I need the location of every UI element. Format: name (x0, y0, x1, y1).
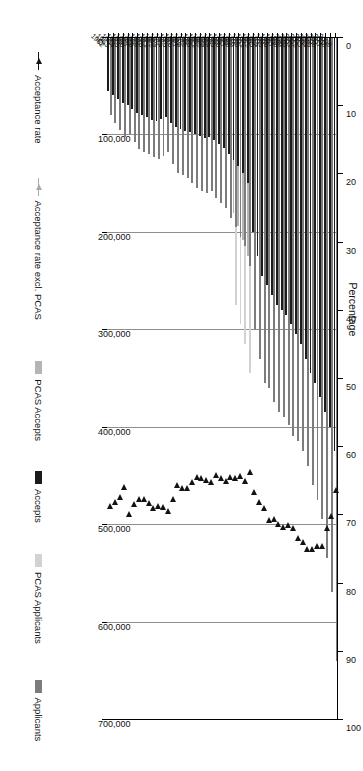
bar-accepts (319, 37, 321, 397)
chart-legend: Acceptance rateAcceptance rate excl. PCA… (3, 0, 63, 771)
tick-label-percentage: 20 (346, 177, 356, 187)
bar-accepts (285, 37, 287, 315)
tick-percentage (338, 446, 343, 447)
bar-accepts (141, 37, 143, 115)
bar-accepts (175, 37, 177, 127)
legend-item: PCAS Accepts (33, 361, 45, 441)
legend-label: PCAS Applicants (33, 572, 44, 644)
bar-accepts (151, 37, 153, 120)
tick-label-percentage: 10 (346, 109, 356, 119)
legend-swatch (35, 680, 42, 693)
tick-label-percentage: 30 (346, 246, 356, 256)
legend-label: Acceptance rate (33, 75, 44, 144)
bar-accepts (334, 37, 336, 451)
bar-accepts (146, 37, 148, 117)
tick-label-percentage: 100 (346, 723, 361, 733)
bar-accepts (156, 37, 158, 121)
bar-accepts (160, 37, 162, 119)
bar-accepts (266, 37, 268, 285)
bar-accepts (257, 37, 259, 256)
legend-swatch (35, 554, 42, 567)
legend-item: Applicants (33, 680, 45, 742)
bar-accepts (218, 37, 220, 144)
legend-item: Accepts (33, 471, 45, 523)
bar-accepts (247, 37, 249, 183)
marker-acceptance-rate (126, 511, 132, 517)
marker-acceptance-rate (290, 525, 296, 531)
bar-accepts (237, 37, 239, 166)
axis-line (107, 719, 338, 720)
bar-accepts (310, 37, 312, 373)
marker-acceptance-rate (333, 487, 339, 493)
tick-percentage (338, 514, 343, 515)
legend-label: Accepts (33, 489, 44, 523)
marker-acceptance-rate (300, 539, 306, 545)
marker-acceptance-rate (324, 525, 330, 531)
bar-accepts (329, 37, 331, 427)
tick-percentage (338, 583, 343, 584)
legend-swatch (35, 361, 42, 374)
marker-acceptance-rate (242, 478, 248, 484)
bar-accepts (300, 37, 302, 344)
tick-label-percentage: 40 (346, 314, 356, 324)
tick-percentage (338, 173, 343, 174)
marker-acceptance-rate (189, 479, 195, 485)
legend-marker (35, 52, 43, 70)
legend-label: Acceptance rate excl. PCAS (33, 201, 44, 320)
tick-label-percentage: 0 (346, 41, 351, 51)
marker-acceptance-rate (121, 484, 127, 490)
bar-accepts (180, 37, 182, 129)
bar-accepts (314, 37, 316, 383)
tick-percentage (338, 651, 343, 652)
bar-accepts (199, 37, 201, 136)
tick-label-percentage: 90 (346, 655, 356, 665)
tick-label-percentage: 70 (346, 518, 356, 528)
bar-accepts (213, 37, 215, 140)
marker-acceptance-rate (112, 499, 118, 505)
tick-percentage (338, 242, 343, 243)
legend-label: Applicants (33, 698, 44, 742)
bar-accepts (252, 37, 254, 232)
bar-accepts (271, 37, 273, 295)
bar-accepts (204, 37, 206, 138)
rotated-figure: Percentage 0100,000200,000300,000400,000… (0, 0, 363, 771)
legend-item: Acceptance rate (33, 52, 45, 144)
bar-accepts (208, 37, 210, 137)
marker-acceptance-rate (170, 496, 176, 502)
legend-label: PCAS Accepts (33, 379, 44, 441)
bar-accepts (170, 37, 172, 123)
bar-accepts (261, 37, 263, 276)
bar-accepts (228, 37, 230, 154)
bar-accepts (223, 37, 225, 148)
chart-canvas: Percentage 0100,000200,000300,000400,000… (0, 0, 363, 771)
marker-acceptance-rate (251, 489, 257, 495)
bar-pcas-accepts (237, 166, 239, 226)
marker-acceptance-rate (117, 494, 123, 500)
bar-accepts (189, 37, 191, 132)
marker-acceptance-rate (319, 543, 325, 549)
bar-accepts (305, 37, 307, 359)
legend-item: Acceptance rate excl. PCAS (33, 178, 45, 320)
bar-accepts (276, 37, 278, 305)
tick-percentage (338, 719, 343, 720)
marker-acceptance-rate (247, 469, 253, 475)
tick-label-percentage: 60 (346, 450, 356, 460)
axis-line (107, 37, 338, 38)
legend-marker (35, 178, 43, 196)
tick-percentage (338, 105, 343, 106)
marker-acceptance-rate (328, 513, 334, 519)
marker-acceptance-rate (261, 505, 267, 511)
bar-accepts (324, 37, 326, 412)
bar-accepts (165, 37, 167, 117)
axis-line (337, 37, 338, 719)
bar-accepts (290, 37, 292, 324)
tick-label-percentage: 50 (346, 382, 356, 392)
marker-acceptance-rate (208, 479, 214, 485)
bar-accepts (233, 37, 235, 160)
bar-accepts (295, 37, 297, 334)
bar-pcas-accepts (233, 160, 235, 214)
percentage-axis-title: Percentage (347, 283, 359, 337)
tick-percentage (338, 310, 343, 311)
legend-swatch (35, 471, 42, 484)
bar-pcas-accepts (247, 183, 249, 256)
